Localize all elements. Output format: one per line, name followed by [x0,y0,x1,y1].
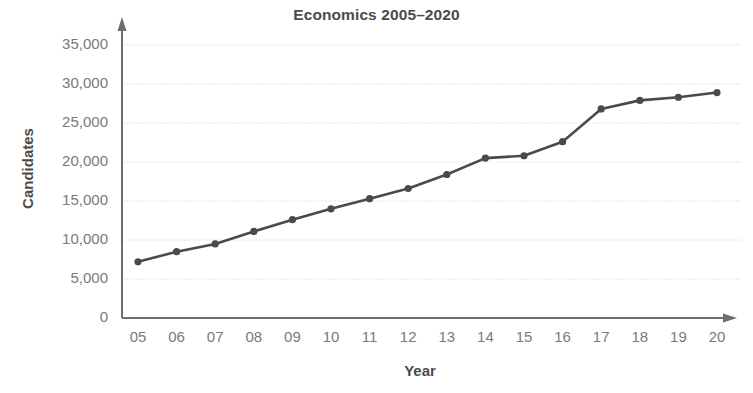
data-point [134,258,141,265]
x-axis-tick-label: 18 [623,328,657,345]
data-point [520,152,527,159]
x-axis-tick-label: 20 [700,328,734,345]
y-axis-tick-label: 5,000 [28,269,108,286]
y-axis-tick-label: 30,000 [28,74,108,91]
y-axis-tick-label: 0 [28,308,108,325]
x-axis-tick-label: 07 [198,328,232,345]
line-chart: Economics 2005–2020 Candidates Year 05,0… [0,0,753,393]
data-point [443,171,450,178]
x-axis-tick-label: 17 [584,328,618,345]
y-axis-tick-label: 35,000 [28,35,108,52]
data-series [138,93,717,262]
y-axis-tick-label: 10,000 [28,230,108,247]
data-point [366,195,373,202]
y-axis-tick-label: 15,000 [28,191,108,208]
x-axis-arrow-icon [723,314,737,323]
y-axis-tick-label: 25,000 [28,113,108,130]
axes [118,17,738,323]
data-point [482,155,489,162]
data-point [289,216,296,223]
data-markers [134,89,720,265]
data-point [405,185,412,192]
x-axis-tick-label: 10 [314,328,348,345]
x-axis-tick-label: 09 [275,328,309,345]
series-line [138,93,717,262]
x-axis-tick-label: 15 [507,328,541,345]
data-point [212,240,219,247]
x-axis-tick-label: 13 [430,328,464,345]
x-axis-tick-label: 06 [160,328,194,345]
x-axis-tick-label: 12 [391,328,425,345]
data-point [327,205,334,212]
data-point [173,248,180,255]
data-point [675,94,682,101]
x-axis-tick-label: 08 [237,328,271,345]
y-axis-arrow-icon [118,17,127,31]
x-axis-tick-label: 05 [121,328,155,345]
x-axis-tick-label: 19 [661,328,695,345]
data-point [598,105,605,112]
x-axis-tick-label: 11 [353,328,387,345]
data-point [559,138,566,145]
x-axis-tick-label: 14 [468,328,502,345]
data-point [250,228,257,235]
y-axis-tick-label: 20,000 [28,152,108,169]
x-axis-tick-label: 16 [546,328,580,345]
data-point [636,97,643,104]
data-point [713,89,720,96]
